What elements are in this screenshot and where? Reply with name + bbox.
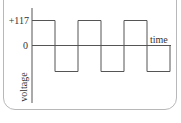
y-tick-label-top: +117 [9, 15, 29, 26]
square-wave-chart: +117 0 time voltage [0, 0, 181, 123]
x-axis-label: time [150, 34, 168, 45]
cropped-caption-fragment [4, 117, 16, 123]
y-tick-label-zero: 0 [23, 40, 28, 51]
y-axis-label: voltage [18, 72, 29, 102]
